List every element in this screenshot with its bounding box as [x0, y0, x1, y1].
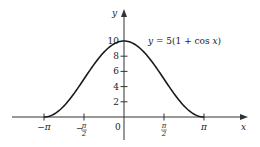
svg-text:2: 2 [81, 130, 87, 138]
y-tick-label: 2 [113, 97, 119, 107]
y-tick-label: 6 [113, 66, 119, 76]
chart: −π−π2π2π 246810 x y 0 y = 5(1 + cos x) [0, 0, 260, 147]
x-tick-label: π2 [161, 122, 167, 138]
y-tick-label: 4 [113, 82, 119, 92]
x-axis-arrow-icon [240, 114, 248, 120]
svg-text:π: π [161, 122, 167, 130]
x-tick-label: −π2 [76, 122, 87, 138]
x-tick-label: −π [37, 122, 52, 132]
x-axis-label: x [241, 122, 246, 132]
x-tick-label: π [200, 122, 208, 132]
svg-text:π: π [81, 122, 87, 130]
equation-label: y = 5(1 + cos x) [147, 36, 221, 46]
y-axis-label: y [111, 8, 118, 18]
y-tick-label: 8 [113, 51, 119, 61]
origin-label: 0 [115, 122, 121, 132]
axes [12, 9, 248, 140]
svg-text:2: 2 [161, 130, 167, 138]
y-axis-arrow-icon [121, 9, 127, 17]
